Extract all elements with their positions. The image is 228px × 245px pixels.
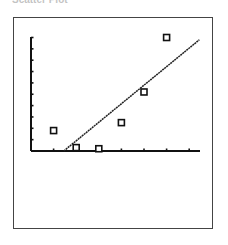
- scatter-plot: [0, 0, 228, 245]
- data-point-center: [98, 148, 100, 150]
- data-points: [51, 35, 170, 152]
- data-point-center: [166, 37, 168, 39]
- data-point-center: [75, 147, 77, 149]
- data-point-center: [121, 122, 123, 124]
- regression-line: [64, 40, 200, 151]
- data-point-center: [53, 130, 55, 132]
- data-point-center: [143, 91, 145, 93]
- regression-line-segment: [64, 40, 200, 151]
